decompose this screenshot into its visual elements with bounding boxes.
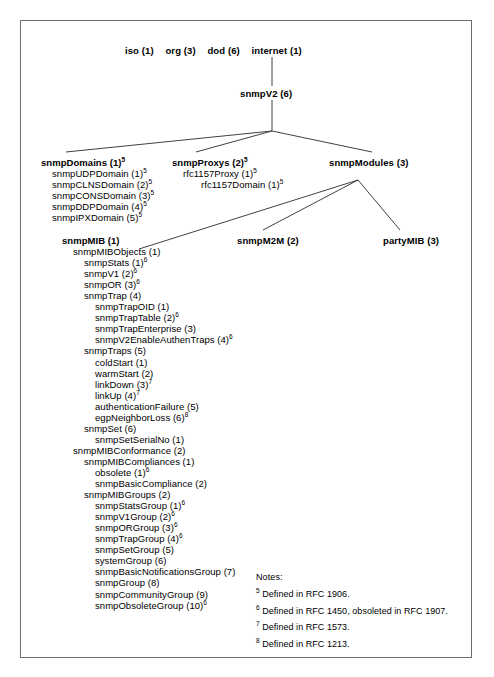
node-snmpmib-child: coldStart (1)	[62, 357, 235, 368]
node-snmpproxys-note-ref: 5	[244, 156, 248, 163]
root-node-dod: dod (6)	[207, 45, 239, 56]
node-snmpdomains-child: snmpIPXDomain (5)5	[41, 212, 154, 223]
node-snmpmib: snmpMIB (1)	[62, 235, 235, 246]
node-snmpproxys-child-note-ref: 5	[280, 178, 284, 185]
note-item: 8Defined in RFC 1213.	[256, 639, 448, 650]
node-snmpv2: snmpV2 (6)	[240, 88, 292, 99]
note-item-text: Defined in RFC 1213.	[262, 639, 350, 649]
node-snmpmib-child-label: snmpV1Group (2)	[95, 511, 171, 522]
node-snmpmib-child-label: snmpORGroup (3)	[95, 522, 174, 533]
node-snmpdomains-child-note-ref: 5	[148, 178, 152, 185]
node-snmpdomains-child-label: snmpDDPDomain (4)	[52, 201, 143, 212]
node-snmpmib-child: snmpTrapOID (1)	[62, 301, 235, 312]
node-snmpmib-child-label: coldStart (1)	[95, 357, 147, 368]
note-item: 5Defined in RFC 1906.	[256, 589, 448, 600]
node-snmpmib-child-note-ref: 6	[171, 510, 175, 517]
node-snmpmib-child: snmpMIBGroups (2)	[62, 489, 235, 500]
node-snmpmib-child: snmpV1Group (2)6	[62, 511, 235, 522]
snmpdomains-children-list: snmpUDPDomain (1)5snmpCLNSDomain (2)5snm…	[41, 168, 154, 223]
node-snmpmib-child-label: obsolete (1)	[95, 467, 146, 478]
node-snmpmib-child-note-ref: 6	[134, 267, 138, 274]
node-snmpmib-child-label: snmpGroup (8)	[95, 577, 160, 588]
node-snmpproxys-child-label: rfc1157Proxy (1)	[183, 168, 253, 179]
notes-items-list: 5Defined in RFC 1906.6Defined in RFC 145…	[256, 589, 448, 650]
node-snmpmib-child: snmpBasicCompliance (2)	[62, 478, 235, 489]
node-snmpdomains-child-label: snmpCLNSDomain (2)	[52, 179, 148, 190]
node-snmpdomains-child: snmpCLNSDomain (2)5	[41, 179, 154, 190]
node-snmpdomains-note-ref: 5	[121, 156, 125, 163]
note-item-text: Defined in RFC 1906.	[262, 589, 350, 599]
node-snmpmib-child-note-ref: 6	[146, 466, 150, 473]
node-snmpdomains: snmpDomains (1)5	[41, 157, 154, 168]
node-snmpmib-child-label: snmpTraps (5)	[84, 345, 146, 356]
root-oid-path: iso (1) org (3) dod (6) internet (1)	[125, 45, 302, 56]
notes-legend: Notes: 5Defined in RFC 1906.6Defined in …	[256, 572, 448, 655]
node-snmpmib-child-label: snmpMIBGroups (2)	[84, 489, 170, 500]
node-snmpmib-child-label: snmpV1 (2)	[84, 268, 134, 279]
snmpmib-children-list: snmpMIBObjects (1)snmpStats (1)6snmpV1 (…	[62, 246, 235, 611]
node-snmpmib-child-label: snmpTrapOID (1)	[95, 301, 169, 312]
note-item: 7Defined in RFC 1573.	[256, 622, 448, 633]
node-snmpmib-child: snmpSetSerialNo (1)	[62, 434, 235, 445]
node-snmpproxys-child-label: rfc1157Domain (1)	[201, 179, 280, 190]
node-snmpmib-child-label: warmStart (2)	[95, 368, 153, 379]
node-snmpdomains-child-note-ref: 5	[143, 200, 147, 207]
node-snmpmib-child: snmpGroup (8)	[62, 577, 235, 588]
snmpproxys-children-list: rfc1157Proxy (1)5rfc1157Domain (1)5	[172, 168, 284, 190]
node-snmpmib-child: egpNeighborLoss (6)8	[62, 412, 235, 423]
node-snmpmib-child: snmpStatsGroup (1)6	[62, 500, 235, 511]
node-snmpmib-child-label: snmpTrapTable (2)	[95, 312, 175, 323]
node-snmpdomains-label: snmpDomains (1)	[41, 157, 121, 168]
node-snmpmib-child: snmpCommunityGroup (9)	[62, 589, 235, 600]
node-snmpmib-child: linkDown (3)7	[62, 379, 235, 390]
node-snmpmib-child-label: systemGroup (6)	[95, 555, 167, 566]
node-snmpproxys: snmpProxys (2)5	[172, 157, 284, 168]
node-snmpmib-child-note-ref: 6	[175, 311, 179, 318]
note-item-text: Defined in RFC 1450, obsoleted in RFC 19…	[262, 606, 448, 616]
node-snmpmib-child-note-ref: 6	[229, 333, 233, 340]
node-snmpmib-child-label: snmpSetSerialNo (1)	[95, 434, 184, 445]
node-snmpmib-child-label: snmpTrapGroup (4)	[95, 533, 179, 544]
node-snmpmib-child: snmpOR (3)6	[62, 279, 235, 290]
node-snmpproxys-child-note-ref: 5	[253, 167, 257, 174]
node-snmpdomains-child-note-ref: 5	[151, 189, 155, 196]
node-snmpmib-child: snmpObsoleteGroup (10)6	[62, 600, 235, 611]
node-snmpmib-child: snmpTrap (4)	[62, 290, 235, 301]
node-snmpmib-child-label: snmpStatsGroup (1)	[95, 500, 181, 511]
node-snmpmib-child: linkUp (4)7	[62, 390, 235, 401]
node-partymib: partyMIB (3)	[383, 235, 439, 246]
node-snmpmib-child-label: snmpTrapEnterprise (3)	[95, 323, 196, 334]
branch-snmpmib: snmpMIB (1) snmpMIBObjects (1)snmpStats …	[62, 235, 235, 611]
node-snmpmib-child: snmpStats (1)6	[62, 257, 235, 268]
root-node-org: org (3)	[165, 45, 195, 56]
node-snmpmib-child-label: snmpCommunityGroup (9)	[95, 589, 208, 600]
node-snmpmib-child: snmpSet (6)	[62, 423, 235, 434]
node-snmpmib-child-label: snmpV2EnableAuthenTraps (4)	[95, 334, 229, 345]
node-snmpmib-child: snmpTrapTable (2)6	[62, 312, 235, 323]
node-snmpmib-child-label: snmpSetGroup (5)	[95, 544, 174, 555]
note-item: 6Defined in RFC 1450, obsoleted in RFC 1…	[256, 606, 448, 617]
node-snmpmib-child-label: snmpBasicNotificationsGroup (7)	[95, 566, 235, 577]
node-snmpmib-child-note-ref: 6	[174, 521, 178, 528]
note-item-marker: 5	[256, 587, 260, 594]
node-snmpmib-child-label: snmpBasicCompliance (2)	[95, 478, 207, 489]
node-snmpmib-child: snmpV1 (2)6	[62, 268, 235, 279]
node-snmpmib-child-label: snmpMIBConformance (2)	[73, 445, 186, 456]
node-snmpmib-child: authenticationFailure (5)	[62, 401, 235, 412]
node-partymib-label: partyMIB (3)	[383, 235, 439, 246]
node-snmpmib-child: snmpMIBConformance (2)	[62, 445, 235, 456]
node-snmpmib-child-note-ref: 7	[148, 377, 152, 384]
node-snmpmib-child-note-ref: 6	[203, 598, 207, 605]
node-snmpmib-child-note-ref: 8	[185, 411, 189, 418]
node-snmpmib-child: snmpTrapGroup (4)6	[62, 533, 235, 544]
note-item-marker: 7	[256, 620, 260, 627]
node-snmpmib-child-label: snmpObsoleteGroup (10)	[95, 600, 203, 611]
node-snmpdomains-child: snmpCONSDomain (3)5	[41, 190, 154, 201]
note-item-text: Defined in RFC 1573.	[262, 622, 350, 632]
note-item-marker: 6	[256, 604, 260, 611]
node-snmpdomains-child-note-ref: 5	[143, 167, 147, 174]
node-snmpmodules: snmpModules (3)	[329, 157, 409, 168]
node-snmpmodules-label: snmpModules (3)	[329, 157, 409, 168]
node-snmpmib-child-note-ref: 6	[181, 499, 185, 506]
branch-snmpdomains: snmpDomains (1)5 snmpUDPDomain (1)5snmpC…	[41, 157, 154, 223]
